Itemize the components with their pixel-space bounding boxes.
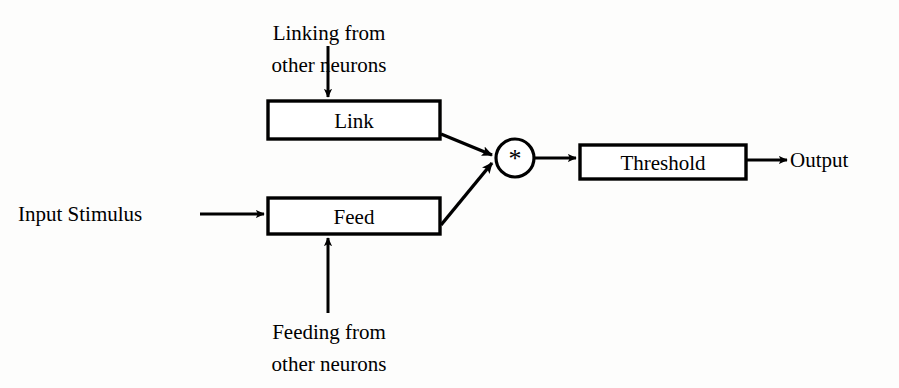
diagram-canvas: Link Feed * Threshold [0,0,899,388]
output-label: Output [790,148,849,172]
multiplier-symbol: * [509,144,522,173]
block-diagram-svg: Link Feed * Threshold [0,0,899,388]
link-block: Link [268,101,440,139]
feeding-source-label-line1: Feeding from [272,320,386,344]
input-stimulus-label: Input Stimulus [18,202,142,226]
connector-feed-to-multiplier [441,163,492,225]
feed-box-label: Feed [334,205,375,229]
threshold-block: Threshold [580,145,746,179]
connector-link-to-multiplier [441,134,492,155]
linking-source-label-line1: Linking from [273,21,386,45]
linking-source-label-line2: other neurons [272,53,387,77]
threshold-box-label: Threshold [620,151,706,175]
feeding-source-label-line2: other neurons [272,352,387,376]
feed-block: Feed [268,198,440,234]
multiplier-node: * [496,139,534,177]
link-box-label: Link [334,109,374,133]
